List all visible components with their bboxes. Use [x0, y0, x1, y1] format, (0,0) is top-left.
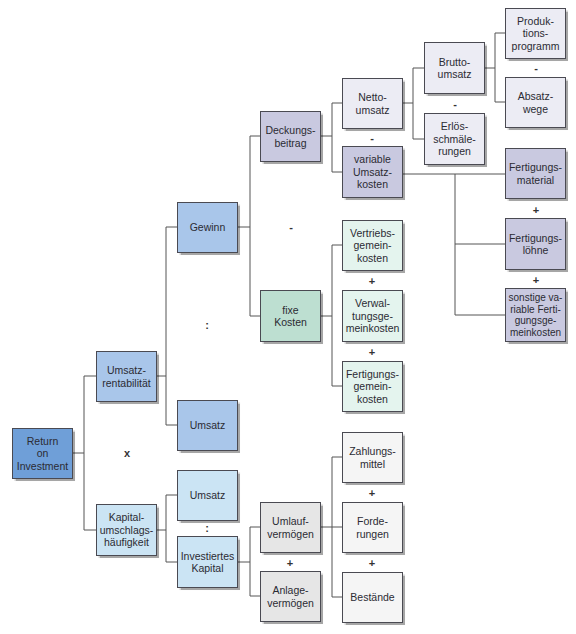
roi-tree-diagram: Return on Investment Umsatz- rentabilitä…: [0, 0, 576, 634]
node-fertigungsloehne: Fertigungs- löhne: [505, 218, 566, 270]
node-forderungen: Forde- rungen: [342, 502, 403, 553]
node-bruttoumsatz: Brutto- umsatz: [424, 42, 485, 94]
node-nettoumsatz: Netto- umsatz: [342, 78, 403, 129]
node-sonstige-variable-fertigungsgemeinkosten: sonstige va- riable Ferti- gungsge- mein…: [505, 288, 566, 342]
node-zahlungsmittel: Zahlungs- mittel: [342, 432, 403, 483]
node-kapitalumschlagshaeufigkeit: Kapital- umschlags- häufigkeit: [96, 504, 157, 556]
node-bestaende: Bestände: [342, 572, 403, 623]
node-fixe-kosten: fixe Kosten: [260, 290, 321, 342]
operator-plus-fixkosten-1: +: [369, 275, 375, 287]
operator-plus-umlauf-1: +: [369, 487, 375, 499]
operator-minus-nettoumsatz: -: [453, 98, 457, 110]
node-fertigungsmaterial: Fertigungs- material: [505, 148, 566, 199]
node-anlagevermoegen: Anlage- vermögen: [260, 571, 321, 622]
operator-plus-kapital: +: [287, 557, 293, 569]
operator-plus-fixkosten-2: +: [369, 346, 375, 358]
node-umlaufvermoegen: Umlauf- vermögen: [260, 502, 321, 553]
node-return-on-investment: Return on Investment: [12, 428, 73, 479]
operator-minus-gewinn: -: [289, 221, 293, 233]
node-produktionsprogramm: Produk- tions- programm: [505, 8, 566, 59]
operator-divide-rentabilitaet: :: [205, 319, 209, 331]
operator-divide-umschlag: :: [205, 522, 209, 534]
operator-plus-variable-1: +: [533, 204, 539, 216]
node-deckungsbeitrag: Deckungs- beitrag: [260, 111, 321, 162]
node-vertriebsgemeinkosten: Vertriebs- gemein- kosten: [342, 220, 403, 271]
operator-minus-bruttoumsatz: -: [534, 62, 538, 74]
node-investiertes-kapital: Investiertes Kapital: [177, 536, 238, 588]
operator-plus-umlauf-2: +: [369, 557, 375, 569]
node-umsatz-rentabilitaet: Umsatz: [177, 400, 238, 451]
node-umsatz-kapital: Umsatz: [177, 470, 238, 521]
node-erloesschmaelerungen: Erlös- schmäle- rungen: [424, 113, 485, 165]
node-umsatzrentabilitaet: Umsatz- rentabilität: [96, 351, 157, 402]
operator-minus-deckungsbeitrag: -: [370, 132, 374, 144]
node-verwaltungsgemeinkosten: Verwal- tungsge- meinkosten: [342, 290, 403, 342]
node-fertigungsgemeinkosten: Fertigungs- gemein- kosten: [342, 361, 403, 412]
node-absatzwege: Absatz- wege: [505, 77, 566, 128]
node-variable-umsatzkosten: variable Umsatz- kosten: [342, 146, 403, 198]
operator-plus-variable-2: +: [533, 274, 539, 286]
node-gewinn: Gewinn: [177, 202, 238, 253]
operator-multiply: x: [124, 447, 130, 459]
